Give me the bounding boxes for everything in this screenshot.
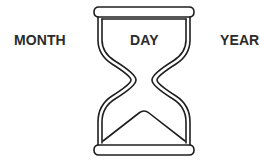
hourglass-top-cap (94, 7, 194, 17)
hourglass-bottom-cap (94, 145, 194, 155)
sand-mound (103, 111, 185, 141)
hourglass-icon (0, 0, 260, 161)
